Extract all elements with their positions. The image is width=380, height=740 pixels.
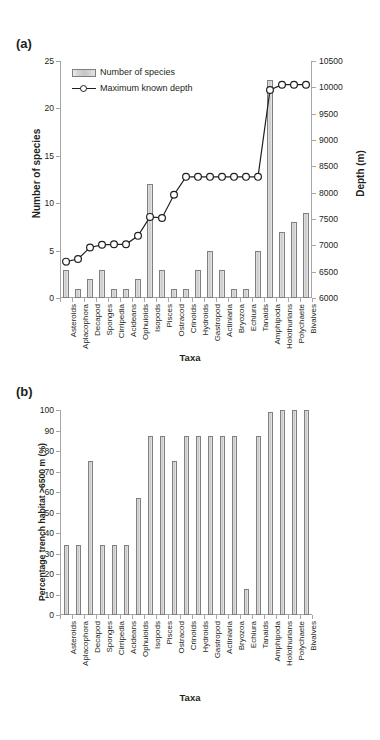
bar	[304, 410, 309, 615]
axis-tick	[312, 61, 316, 62]
bar	[64, 545, 69, 615]
axis-tick-label: 30	[44, 549, 54, 559]
axis-tick	[216, 615, 217, 619]
x-tick-label: Bryozoa	[237, 621, 246, 650]
axis-tick	[56, 410, 60, 411]
axis-tick-label: 9500	[319, 109, 338, 119]
axis-tick	[228, 298, 229, 302]
axis-tick-label: 70	[44, 467, 54, 477]
x-tick-label: Aplacophora	[81, 304, 90, 349]
x-tick-label: Acideans	[129, 304, 138, 337]
axis-tick	[120, 615, 121, 619]
axis-tick-label: 5	[49, 246, 54, 256]
x-tick-label: Actiniaria	[225, 304, 234, 337]
axis-tick-label: 20	[44, 569, 54, 579]
x-tick-label: Decapod	[93, 621, 102, 653]
x-tick-label: Hydroids	[201, 304, 210, 336]
axis-tick-label: 8000	[319, 188, 338, 198]
axis-tick	[276, 615, 277, 619]
axis-tick-label: 9000	[319, 135, 338, 145]
axis-tick	[156, 298, 157, 302]
axis-tick	[264, 615, 265, 619]
x-tick-label: Pisces	[165, 304, 174, 328]
axis-tick-label: 7500	[319, 214, 338, 224]
axis-tick	[56, 533, 60, 534]
axis-tick	[56, 108, 60, 109]
axis-tick	[312, 193, 316, 194]
axis-tick-label: 25	[44, 56, 54, 66]
axis-tick	[288, 615, 289, 619]
x-tick-label: Isopods	[153, 304, 162, 332]
axis-tick	[60, 615, 61, 619]
depth-marker	[147, 213, 154, 220]
axis-tick	[240, 615, 241, 619]
bar	[196, 436, 201, 615]
axis-tick-label: 60	[44, 487, 54, 497]
axis-tick-label: 0	[49, 293, 54, 303]
x-tick-label: Crinoids	[189, 621, 198, 650]
axis-tick	[228, 615, 229, 619]
axis-tick-label: 7000	[319, 240, 338, 250]
line-marker-icon	[72, 85, 96, 93]
axis-tick	[180, 298, 181, 302]
axis-tick	[56, 156, 60, 157]
axis-tick	[216, 298, 217, 302]
axis-tick	[56, 431, 60, 432]
axis-tick	[56, 595, 60, 596]
x-tick-label: Tanaids	[261, 621, 270, 649]
axis-tick	[56, 451, 60, 452]
depth-marker	[231, 173, 238, 180]
bar	[160, 436, 165, 615]
depth-marker	[171, 191, 178, 198]
axis-tick	[300, 298, 301, 302]
depth-marker	[219, 173, 226, 180]
bar	[148, 436, 153, 615]
bar-swatch-icon	[72, 69, 96, 77]
legend-item-line: Maximum known depth	[72, 82, 193, 95]
x-tick-label: Bryozoa	[237, 304, 246, 333]
x-tick-label: Gastropod	[213, 621, 222, 658]
axis-tick	[312, 298, 313, 302]
panel-a-x-axis-title: Taxa	[0, 352, 380, 363]
axis-tick	[72, 615, 73, 619]
x-tick-label: Pisces	[165, 621, 174, 645]
axis-tick	[264, 298, 265, 302]
panel-a-y-axis-title: Number of species	[31, 114, 42, 234]
x-tick-label: Sponges	[105, 621, 114, 653]
axis-tick-label: 40	[44, 528, 54, 538]
axis-tick	[312, 219, 316, 220]
axis-tick	[312, 166, 316, 167]
axis-tick	[56, 61, 60, 62]
x-tick-label: Amphipoda	[273, 304, 282, 344]
x-tick-label: Decapod	[93, 304, 102, 336]
figure-container: (a) Number of species Depth (m) 05101520…	[0, 0, 380, 740]
x-tick-label: Bivalves	[309, 304, 318, 334]
axis-tick-label: 80	[44, 446, 54, 456]
x-tick-label: Asteroids	[69, 621, 78, 654]
depth-marker	[195, 173, 202, 180]
axis-tick	[56, 203, 60, 204]
axis-tick	[192, 298, 193, 302]
axis-tick-label: 6000	[319, 293, 338, 303]
x-tick-label: Ophuioids	[141, 621, 150, 657]
axis-tick	[56, 251, 60, 252]
axis-tick	[192, 615, 193, 619]
axis-tick	[108, 615, 109, 619]
depth-marker	[87, 244, 94, 251]
bar	[76, 545, 81, 615]
axis-tick	[108, 298, 109, 302]
axis-tick-label: 0	[49, 610, 54, 620]
x-tick-label: Polychaete	[297, 304, 306, 344]
x-tick-label: Crinoids	[189, 304, 198, 333]
bar	[280, 410, 285, 615]
axis-tick	[300, 615, 301, 619]
axis-tick-label: 10500	[319, 56, 343, 66]
panel-a-label: (a)	[16, 36, 32, 51]
depth-marker	[123, 241, 130, 248]
bar	[172, 461, 177, 615]
axis-tick	[240, 298, 241, 302]
x-tick-label: Ostracod	[177, 304, 186, 336]
bar	[220, 436, 225, 615]
depth-marker	[243, 173, 250, 180]
x-tick-label: Ophuioids	[141, 304, 150, 340]
